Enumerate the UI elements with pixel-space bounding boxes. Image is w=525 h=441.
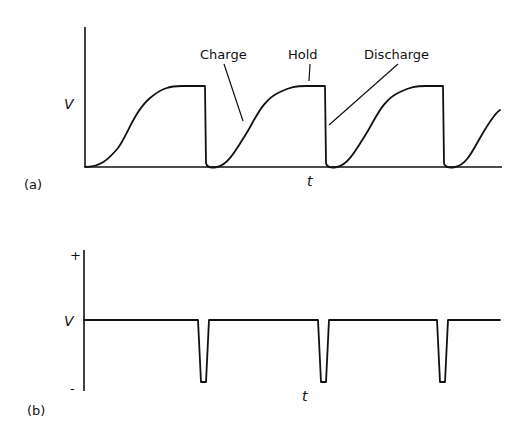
diagram-canvas: Charge Hold Discharge V t (a) + V - t (b… <box>0 0 525 441</box>
panel-a-label: (a) <box>24 177 42 192</box>
panel-b-label: (b) <box>27 403 45 418</box>
panel-a-y-label: V <box>64 96 75 112</box>
panel-a-x-label: t <box>307 173 313 189</box>
discharge-leader-line <box>329 64 398 125</box>
hold-leader-line <box>309 64 310 81</box>
charge-leader-line <box>224 64 243 121</box>
panel-b-plus-tick: + <box>70 248 81 263</box>
panel-b-x-label: t <box>302 388 308 404</box>
panel-a: Charge Hold Discharge V t (a) <box>24 27 502 192</box>
panel-b-y-label: V <box>64 313 75 329</box>
charge-label: Charge <box>200 47 247 62</box>
panel-b-waveform <box>84 320 500 382</box>
hold-label: Hold <box>288 47 318 62</box>
panel-b-minus-tick: - <box>70 381 75 396</box>
discharge-label: Discharge <box>364 47 429 62</box>
panel-a-waveform <box>85 86 500 168</box>
panel-b: + V - t (b) <box>27 248 500 418</box>
